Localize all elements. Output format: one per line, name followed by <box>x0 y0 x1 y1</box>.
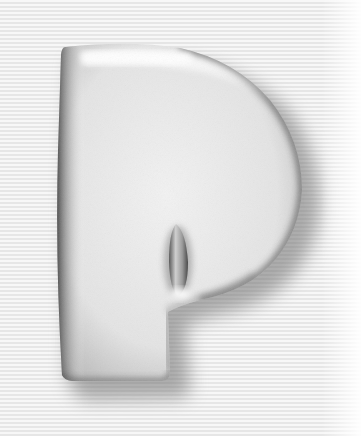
striped-background: P <box>0 0 361 436</box>
glossy-letter-p-icon <box>0 0 361 436</box>
